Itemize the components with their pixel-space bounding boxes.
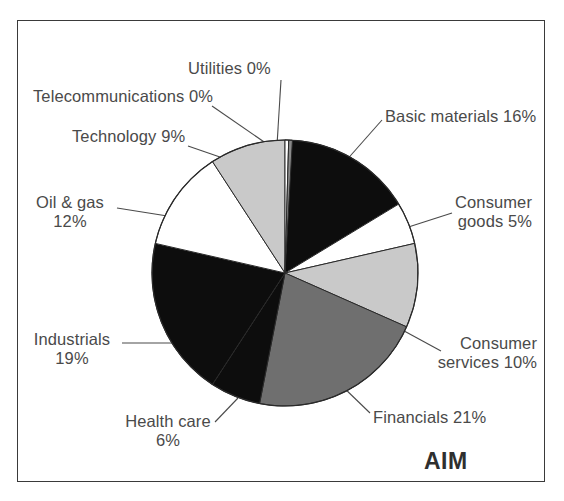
pie-label-consumer-services: Consumer services 10%: [404, 334, 537, 371]
market-name-label: AIM: [424, 448, 468, 475]
pie-label-industrials: Industrials 19%: [28, 330, 116, 367]
pie-label-industrials-value: 19%: [55, 349, 88, 367]
pie-label-consumer-services-name: Consumer: [460, 334, 537, 352]
pie-label-oil-gas-name: Oil & gas: [36, 193, 104, 211]
pie-label-technology: Technology 9%: [72, 127, 185, 145]
pie-label-basic-materials: Basic materials 16%: [385, 107, 536, 125]
pie-label-consumer-goods-value: goods 5%: [458, 212, 532, 230]
pie-label-health-care: Health care 6%: [123, 412, 213, 449]
pie-label-consumer-services-value: services 10%: [438, 353, 537, 371]
pie-label-health-care-value: 6%: [156, 431, 180, 449]
pie-label-oil-gas: Oil & gas 12%: [28, 193, 112, 230]
pie-label-utilities: Utilities 0%: [188, 59, 271, 77]
pie-label-consumer-goods: Consumer goods 5%: [420, 193, 532, 230]
pie-label-financials: Financials 21%: [373, 408, 486, 426]
pie-label-oil-gas-value: 12%: [53, 212, 86, 230]
pie-slices: [152, 140, 418, 406]
leader-line-health-care: [215, 398, 238, 422]
pie-label-telecommunications: Telecommunications 0%: [33, 87, 213, 105]
pie-label-industrials-name: Industrials: [34, 330, 110, 348]
leader-line-telecommunications: [212, 106, 270, 146]
chart-screenshot: Utilities 0% Telecommunications 0% Techn…: [0, 0, 564, 501]
pie-label-health-care-name: Health care: [125, 412, 210, 430]
pie-label-consumer-goods-name: Consumer: [455, 193, 532, 211]
leader-line-utilities: [277, 80, 281, 145]
